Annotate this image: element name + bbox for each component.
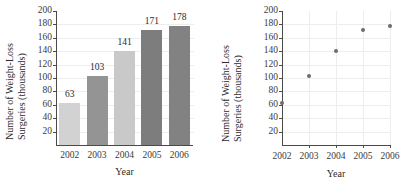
bar-chart-bar [59, 103, 80, 145]
scatter-chart-y-tick-label: 40 [248, 113, 278, 123]
bar-chart-bar [169, 26, 190, 145]
scatter-chart-y-tick-label: 160 [248, 33, 278, 43]
bar-chart-y-tick-label: 80 [22, 86, 52, 96]
scatter-chart-gridline-h [283, 65, 391, 66]
bar-chart-y-axis-title: Number of Weight-Loss [4, 0, 15, 140]
scatter-chart-y-tick-label: 200 [248, 6, 278, 16]
scatter-chart-point [361, 28, 365, 32]
scatter-chart-y-axis-title: Number of Weight-Loss [220, 2, 231, 142]
bar-chart-panel: Number of Weight-Loss Surgeries (thousan… [0, 0, 198, 184]
bar-chart-y-tick-label: 160 [22, 33, 52, 43]
bar-chart-x-axis-line [56, 145, 193, 146]
scatter-chart-gridline-h [283, 91, 391, 92]
scatter-chart-gridline-h [283, 24, 391, 25]
bar-chart-value-label: 141 [105, 38, 145, 48]
scatter-chart-x-tick-label: 2006 [370, 152, 404, 162]
scatter-chart-gridline-h [283, 38, 391, 39]
bar-chart-value-label: 103 [77, 63, 117, 73]
scatter-chart-y-axis-line [282, 11, 283, 146]
scatter-chart-gridline-h [283, 78, 391, 79]
scatter-chart-y-axis-title-line2: Surgeries (thousands) [232, 2, 243, 142]
scatter-chart-gridline-h [283, 132, 391, 133]
bar-chart-y-tick-label: 20 [22, 127, 52, 137]
bar-chart-x-tick-label: 2006 [159, 151, 199, 161]
scatter-chart-gridline-h [283, 118, 391, 119]
scatter-chart-gridline-h [283, 105, 391, 106]
bar-chart-y-tick-label: 140 [22, 46, 52, 56]
scatter-chart-y-axis-title-second: Surgeries (thousands) [232, 2, 243, 142]
scatter-chart-y-tick-label: 140 [248, 46, 278, 56]
scatter-chart-point [280, 101, 284, 105]
bar-chart-bar [87, 76, 108, 145]
bar-chart-y-tick-label: 40 [22, 113, 52, 123]
scatter-chart-y-tick-label: 60 [248, 100, 278, 110]
scatter-chart-x-tickmark [390, 145, 391, 148]
scatter-chart-y-tick-label: 20 [248, 127, 278, 137]
scatter-chart-x-axis-title: Year [282, 168, 390, 179]
bar-chart-x-axis-title: Year [56, 166, 193, 177]
scatter-chart-panel: Number of Weight-Loss Surgeries (thousan… [198, 0, 397, 184]
scatter-chart-gridline-v [390, 11, 391, 145]
bar-chart-bar [141, 30, 162, 145]
bar-chart-y-axis-line [56, 11, 57, 146]
bar-chart-y-tick-label: 100 [22, 73, 52, 83]
scatter-chart-point [388, 24, 392, 28]
scatter-chart-y-axis-title-line1: Number of Weight-Loss [220, 2, 231, 142]
scatter-chart-point [307, 74, 311, 78]
bar-chart-y-tick-label: 180 [22, 19, 52, 29]
scatter-chart-y-tick-label: 100 [248, 73, 278, 83]
scatter-chart-gridline-v [336, 11, 337, 145]
scatter-chart-point [334, 49, 338, 53]
scatter-chart-y-tick-label: 80 [248, 86, 278, 96]
bar-chart-bar [114, 51, 135, 145]
scatter-chart-gridline-v [309, 11, 310, 145]
bar-chart-y-tick-label: 200 [22, 6, 52, 16]
scatter-chart-y-tick-label: 180 [248, 19, 278, 29]
bar-chart-y-tick-label: 120 [22, 60, 52, 70]
bar-chart-y-tick-label: 60 [22, 100, 52, 110]
scatter-chart-y-tick-label: 120 [248, 60, 278, 70]
bar-chart-y-axis-title-line1: Number of Weight-Loss [4, 0, 15, 140]
bar-chart-value-label: 178 [159, 13, 199, 23]
bar-chart-value-label: 63 [50, 90, 90, 100]
scatter-chart-x-axis-line [282, 145, 390, 146]
